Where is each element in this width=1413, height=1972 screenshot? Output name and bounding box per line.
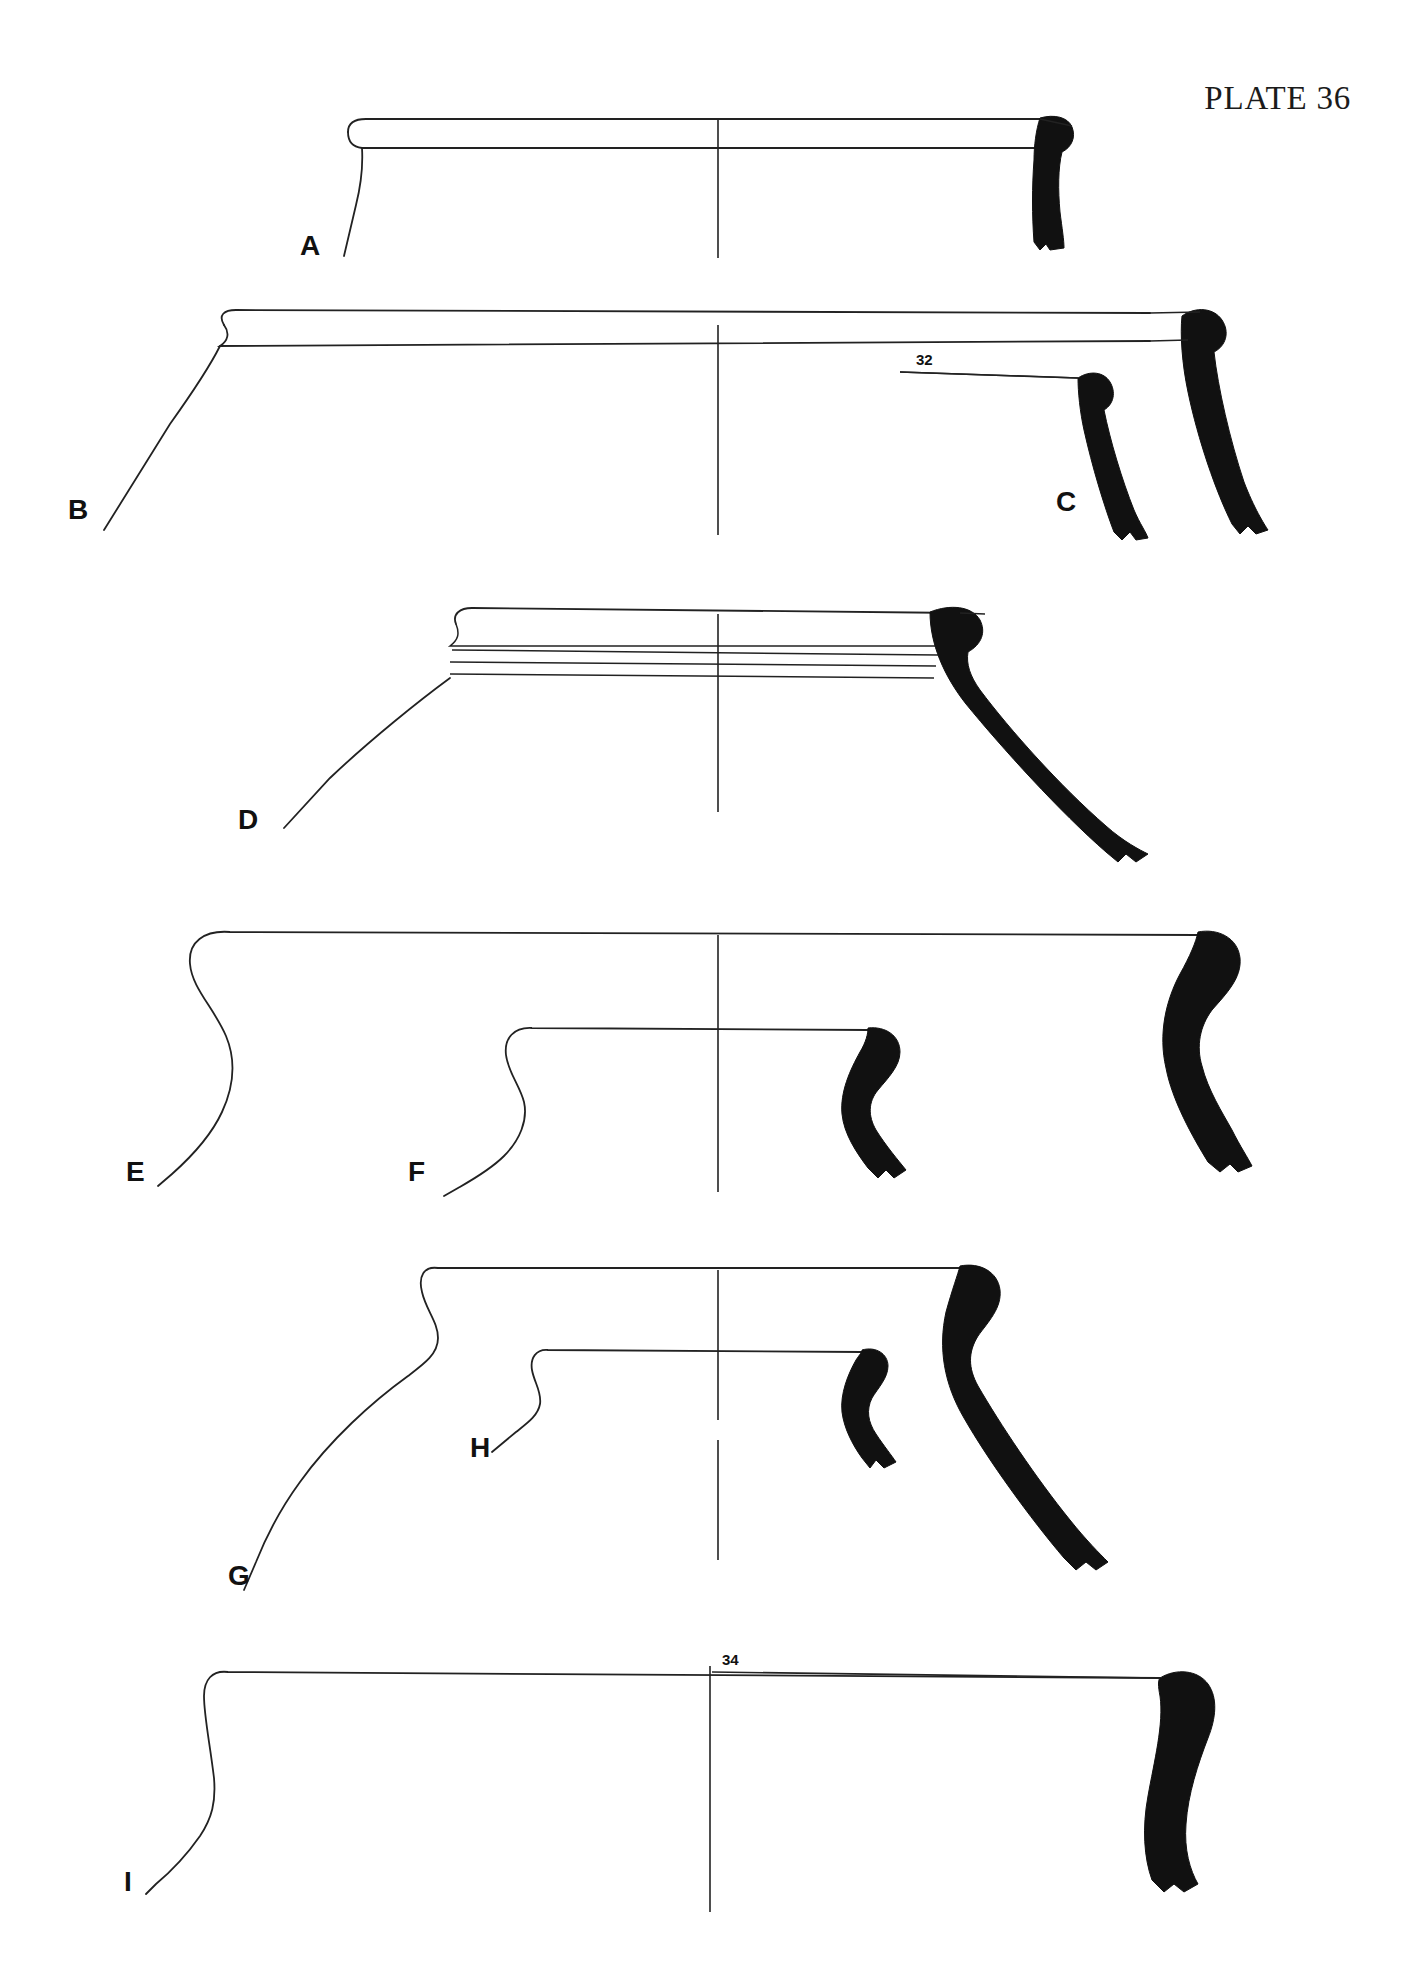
figure-label-b: B bbox=[68, 496, 88, 524]
figure-b-outline bbox=[222, 310, 1150, 325]
figure-label-c: C bbox=[1056, 488, 1076, 516]
figure-h-drawing bbox=[492, 1349, 896, 1468]
figure-label-g: G bbox=[228, 1562, 250, 1590]
annotation-label-34: 34 bbox=[722, 1652, 739, 1667]
figure-a-section bbox=[1033, 116, 1074, 250]
figure-i-section bbox=[1145, 1672, 1215, 1892]
figure-a-outline bbox=[348, 119, 1040, 132]
figure-a-drawing bbox=[344, 116, 1074, 258]
figure-label-e: E bbox=[126, 1158, 145, 1186]
figure-a-wall bbox=[344, 148, 362, 256]
figure-d-section-rim-line bbox=[960, 613, 985, 614]
figure-d-wall bbox=[284, 678, 450, 828]
figure-b-rim-inner bbox=[220, 325, 1150, 346]
figure-d-groove-4 bbox=[450, 674, 934, 678]
figure-e-section bbox=[1163, 931, 1252, 1172]
figure-g-drawing bbox=[244, 1265, 1108, 1590]
figure-c-drawing bbox=[1150, 310, 1268, 534]
figure-d-groove-2 bbox=[452, 650, 938, 655]
figure-e-drawing bbox=[158, 932, 1198, 1192]
figure-c-section-rim-line-2 bbox=[1150, 340, 1188, 341]
figure-g-section bbox=[943, 1265, 1108, 1570]
figure-label-i: I bbox=[124, 1868, 132, 1896]
figure-d-outline bbox=[455, 608, 960, 624]
vessel-profile-drawings bbox=[0, 0, 1413, 1972]
figure-d-groove-3 bbox=[450, 662, 936, 666]
figure-label-f: F bbox=[408, 1158, 425, 1186]
annotation-32-leader bbox=[900, 372, 1078, 378]
figure-label-a: A bbox=[300, 232, 320, 260]
figure-f-section bbox=[842, 1028, 906, 1178]
figure-i-drawing bbox=[146, 1666, 1215, 1912]
page-title: PLATE 36 bbox=[1204, 80, 1351, 117]
figure-e-outline bbox=[158, 932, 1198, 1186]
figure-h-section bbox=[842, 1349, 896, 1468]
figure-d-drawing bbox=[284, 607, 1148, 862]
figure-b-drawing bbox=[104, 310, 1150, 540]
figure-d-section bbox=[930, 607, 1148, 862]
figure-a-rim-inner bbox=[348, 132, 1040, 148]
figure-h-outline bbox=[492, 1350, 862, 1452]
figure-e-section-drawing bbox=[1163, 931, 1252, 1172]
annotation-label-32: 32 bbox=[916, 352, 933, 367]
figure-i-outline bbox=[146, 1672, 1160, 1894]
archaeological-plate: PLATE 36 A B C D E F G H I 32 34 bbox=[0, 0, 1413, 1972]
figure-label-h: H bbox=[470, 1434, 490, 1462]
figure-f-outline bbox=[444, 1028, 868, 1196]
figure-c-section bbox=[1181, 310, 1268, 534]
figure-c-section-rim-line bbox=[1150, 312, 1200, 313]
figure-label-d: D bbox=[238, 806, 258, 834]
figure-f-drawing bbox=[444, 1028, 906, 1196]
figure-d-groove-1 bbox=[450, 624, 940, 646]
figure-b-section bbox=[1078, 373, 1148, 540]
figure-b-wall bbox=[104, 346, 220, 530]
